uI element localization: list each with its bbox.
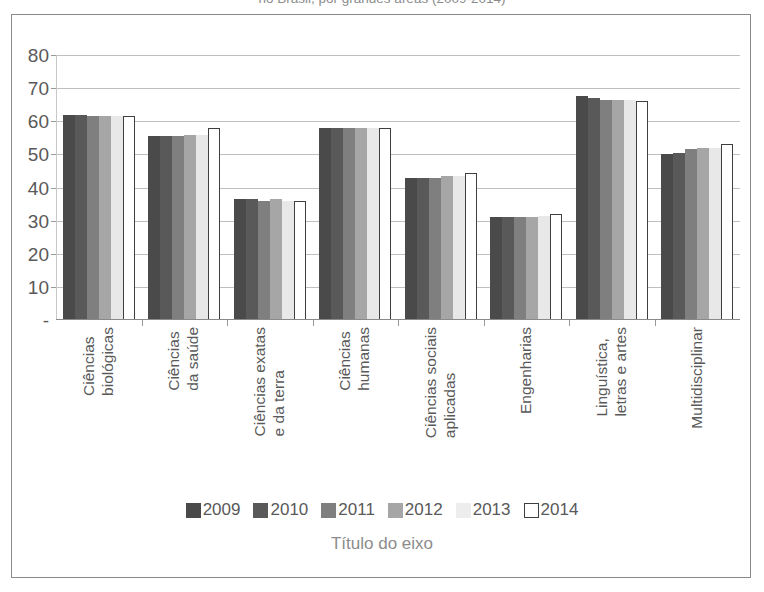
y-tick-label: 30 (28, 211, 49, 230)
bar-2011-4[interactable] (343, 128, 355, 320)
legend-item-2011[interactable]: 2011 (321, 500, 375, 520)
bar-2009-4[interactable] (319, 128, 331, 320)
category-label-cell: Ciênciasda saúde (142, 327, 228, 505)
category-label: Ciências sociaisaplicadas (422, 327, 460, 438)
bar-2010-7[interactable] (588, 98, 600, 320)
y-tick-label: 40 (28, 178, 49, 197)
category-label-cell: Ciências exatase da terra (227, 327, 313, 505)
category-label: Engenharias (517, 327, 536, 414)
legend-item-2009[interactable]: 2009 (186, 500, 241, 520)
bar-2012-5[interactable] (441, 176, 453, 320)
bar-2010-2[interactable] (160, 136, 172, 320)
legend-label: 2013 (473, 500, 511, 520)
bar-2014-8[interactable] (721, 144, 733, 320)
figure-caption: no Brasil, por grandes áreas (2009-2014) (0, 0, 764, 11)
bar-2012-3[interactable] (270, 199, 282, 320)
bar-2010-4[interactable] (331, 128, 343, 320)
category-separator (484, 320, 485, 326)
category-axis-labels: CiênciasbiológicasCiênciasda saúdeCiênci… (56, 327, 740, 505)
legend-swatch-icon (524, 503, 539, 518)
bar-2013-5[interactable] (453, 176, 465, 320)
bar-2010-5[interactable] (417, 178, 429, 320)
bar-2009-8[interactable] (661, 154, 673, 320)
category-separator (655, 320, 656, 326)
bar-2010-1[interactable] (75, 115, 87, 320)
category-label-cell: Multidisciplinar (655, 327, 741, 505)
bar-2014-2[interactable] (208, 128, 220, 320)
legend-item-2014[interactable]: 2014 (524, 500, 579, 520)
bar-2012-1[interactable] (99, 116, 111, 320)
bar-group (569, 55, 655, 320)
bar-group (655, 55, 741, 320)
bar-2011-5[interactable] (429, 178, 441, 320)
legend-label: 2010 (270, 500, 308, 520)
chart-frame: -1020304050607080 CiênciasbiológicasCiên… (11, 14, 751, 578)
x-axis-title: Título do eixo (12, 534, 752, 554)
category-separator (227, 320, 228, 326)
y-tick-label: - (43, 311, 49, 330)
bar-2009-3[interactable] (234, 199, 246, 320)
legend-swatch-icon (388, 503, 403, 518)
chart-legend: 200920102011201220132014 (12, 500, 752, 520)
plot-area: -1020304050607080 (56, 55, 740, 320)
category-label-cell: Engenharias (484, 327, 570, 505)
bar-2011-6[interactable] (514, 217, 526, 320)
bar-2011-7[interactable] (600, 100, 612, 320)
bar-group (398, 55, 484, 320)
bar-2012-8[interactable] (697, 148, 709, 320)
legend-label: 2012 (405, 500, 443, 520)
legend-label: 2011 (338, 500, 375, 520)
bar-group (227, 55, 313, 320)
y-tick-label: 60 (28, 112, 49, 131)
bar-2014-7[interactable] (636, 101, 648, 320)
category-label: Ciênciasbiológicas (80, 327, 118, 396)
category-separator (142, 320, 143, 326)
y-tick-label: 20 (28, 244, 49, 263)
bar-2009-5[interactable] (405, 178, 417, 320)
bar-2011-8[interactable] (685, 149, 697, 320)
bar-2013-7[interactable] (624, 100, 636, 320)
bar-2014-6[interactable] (550, 214, 562, 320)
y-tick-label: 80 (28, 46, 49, 65)
bar-2012-4[interactable] (355, 128, 367, 320)
category-label-cell: Ciênciasbiológicas (56, 327, 142, 505)
bar-2010-6[interactable] (502, 217, 514, 320)
bar-2014-5[interactable] (465, 173, 477, 320)
bar-2010-8[interactable] (673, 153, 685, 320)
bar-2013-4[interactable] (367, 128, 379, 320)
bar-2012-2[interactable] (184, 135, 196, 321)
bar-2014-1[interactable] (123, 116, 135, 320)
bar-2011-2[interactable] (172, 136, 184, 320)
legend-item-2010[interactable]: 2010 (253, 500, 308, 520)
bar-2009-2[interactable] (148, 136, 160, 320)
bar-group (313, 55, 399, 320)
bar-2009-7[interactable] (576, 96, 588, 320)
category-separator (398, 320, 399, 326)
category-label: Ciênciasda saúde (165, 327, 203, 391)
legend-swatch-icon (186, 503, 201, 518)
bar-2012-6[interactable] (526, 217, 538, 320)
bar-2014-3[interactable] (294, 201, 306, 320)
bar-2013-6[interactable] (538, 216, 550, 320)
bar-2011-1[interactable] (87, 116, 99, 320)
legend-item-2013[interactable]: 2013 (456, 500, 511, 520)
category-label: Ciências exatase da terra (251, 327, 289, 436)
bar-2013-3[interactable] (282, 201, 294, 320)
bar-2010-3[interactable] (246, 199, 258, 320)
bar-2011-3[interactable] (258, 201, 270, 320)
bar-2013-8[interactable] (709, 148, 721, 320)
bar-2013-2[interactable] (196, 135, 208, 321)
legend-label: 2009 (203, 500, 241, 520)
bar-2012-7[interactable] (612, 100, 624, 320)
y-tick-label: 70 (28, 79, 49, 98)
bar-2009-6[interactable] (490, 217, 502, 320)
legend-swatch-icon (253, 503, 268, 518)
bar-2014-4[interactable] (379, 128, 391, 320)
chart-page: no Brasil, por grandes áreas (2009-2014)… (0, 0, 764, 592)
bar-series-container (56, 55, 740, 320)
x-axis-line (56, 319, 740, 320)
bar-2009-1[interactable] (63, 115, 75, 320)
legend-item-2012[interactable]: 2012 (388, 500, 443, 520)
category-separator (569, 320, 570, 326)
bar-2013-1[interactable] (111, 116, 123, 320)
